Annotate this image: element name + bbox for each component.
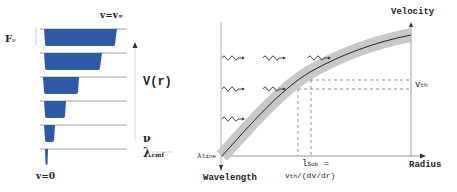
radius-label: Radius <box>409 160 441 170</box>
radius-axis-arrow-icon <box>420 154 426 159</box>
thermal-band <box>222 35 411 156</box>
profile-5 <box>44 125 55 142</box>
nu-label: ν <box>143 132 151 145</box>
velocity-axis-arrow-icon <box>133 42 138 48</box>
lambda-line-label: λline <box>197 151 216 160</box>
left-panel <box>36 28 172 165</box>
profile-2 <box>44 53 102 70</box>
profile-3 <box>43 77 79 94</box>
photon-icon <box>222 87 242 91</box>
dashed-guides <box>298 80 410 156</box>
velocity-axis-arrow-icon <box>409 22 413 27</box>
profile-1 <box>44 29 117 46</box>
velocity-curve <box>222 35 411 156</box>
wavelength-label: Wavelength <box>203 173 257 183</box>
velocity-axis-label: V(r) <box>143 75 172 89</box>
lambda-cmf-label: λcmf <box>143 146 164 160</box>
photon-icon <box>222 117 242 121</box>
right-panel <box>219 22 426 171</box>
line-profiles <box>43 29 117 165</box>
profile-4 <box>44 101 66 118</box>
sobolev-formula: vth/(dv/dr) <box>285 171 335 180</box>
top-velocity-label: v=v∞ <box>100 10 123 20</box>
photon-icon <box>222 56 242 60</box>
wavelength-axis-arrow-icon <box>219 165 223 171</box>
velocity-label: Velocity <box>391 7 434 17</box>
flux-label: Fν <box>5 33 16 44</box>
photon-icon <box>263 56 283 60</box>
diagram-canvas <box>0 0 457 192</box>
vth-label: vth <box>415 80 428 90</box>
sobolev-length-label: lSob = <box>302 159 329 169</box>
bottom-velocity-label: v=0 <box>36 171 55 181</box>
profile-6 <box>45 149 48 165</box>
